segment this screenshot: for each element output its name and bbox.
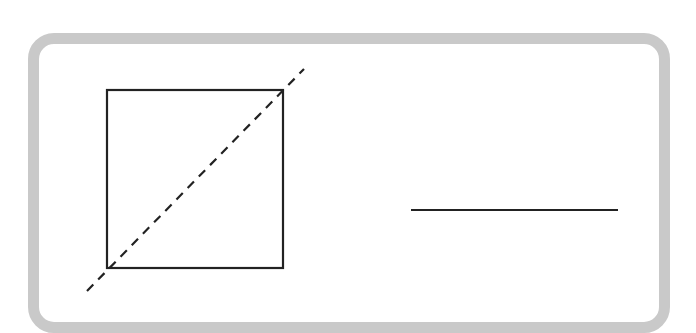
dashed-diagonal-line	[87, 69, 304, 291]
